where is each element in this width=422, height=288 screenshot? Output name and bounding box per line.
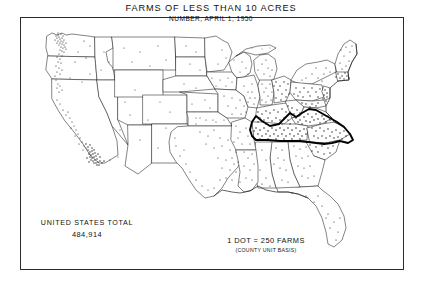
state-ohio bbox=[272, 76, 291, 103]
legend-dot-value: 1 DOT = 250 FARMS bbox=[216, 236, 316, 245]
national-total-block: UNITED STATES TOTAL 484,914 bbox=[27, 219, 147, 239]
state-arizona bbox=[125, 125, 152, 174]
state-nebraska bbox=[163, 76, 215, 92]
state-south-dakota bbox=[176, 57, 207, 76]
us-map-graphic bbox=[0, 0, 422, 288]
state-oregon bbox=[46, 56, 97, 80]
state-louisiana bbox=[236, 150, 258, 192]
state-washington bbox=[46, 33, 95, 57]
state-north-dakota bbox=[175, 37, 205, 57]
state-indiana bbox=[258, 80, 274, 105]
state-wyoming bbox=[115, 70, 163, 97]
state-michigan bbox=[254, 54, 277, 83]
national-total-value: 484,914 bbox=[27, 230, 147, 239]
legend-unit-basis: (COUNTY UNIT BASIS) bbox=[216, 247, 316, 253]
state-colorado bbox=[143, 95, 187, 124]
map-legend-block: 1 DOT = 250 FARMS (COUNTY UNIT BASIS) bbox=[216, 236, 316, 253]
national-total-label: UNITED STATES TOTAL bbox=[27, 219, 147, 227]
state-new-york bbox=[291, 60, 336, 84]
dot-density-map-figure: FARMS OF LESS THAN 10 ACRES NUMBER, APRI… bbox=[0, 0, 422, 288]
state-minnesota bbox=[205, 36, 232, 72]
state-pennsylvania bbox=[290, 82, 324, 101]
state-montana bbox=[112, 37, 176, 70]
state-new-jersey bbox=[322, 86, 330, 100]
state-idaho bbox=[95, 37, 115, 80]
